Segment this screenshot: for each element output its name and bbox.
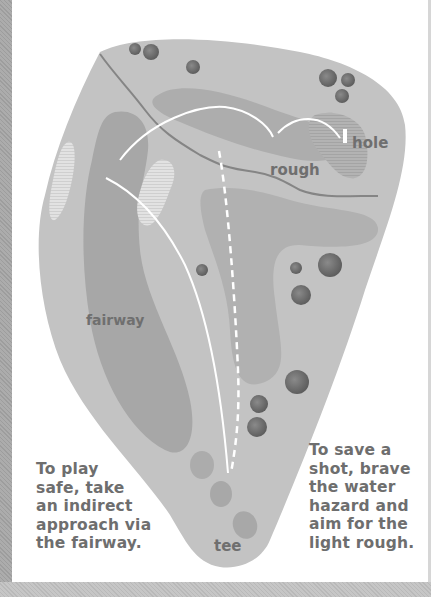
hole-marker (343, 129, 347, 143)
label-fairway: fairway (86, 312, 144, 328)
tee-box-1 (190, 451, 214, 479)
label-tee: tee (214, 537, 242, 555)
caption-safe-route: To play safe, take an indirect approach … (36, 460, 166, 553)
caption-aggressive-route: To save a shot, brave the water hazard a… (309, 441, 429, 552)
tee-box-2 (210, 481, 232, 507)
label-rough: rough (270, 161, 320, 179)
bottom-border-band (0, 582, 431, 597)
label-hole: hole (352, 134, 388, 152)
